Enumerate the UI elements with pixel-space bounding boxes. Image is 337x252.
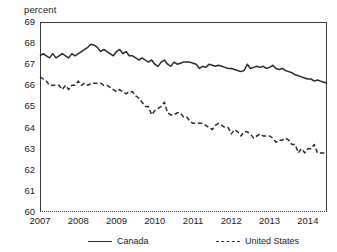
legend-label: Canada bbox=[117, 236, 149, 246]
x-tick-label: 2012 bbox=[221, 216, 242, 226]
x-tick-label: 2009 bbox=[106, 216, 127, 226]
legend-label: United States bbox=[245, 236, 299, 246]
x-tick-label: 2014 bbox=[297, 216, 318, 226]
legend-swatch-solid-icon bbox=[88, 241, 112, 242]
y-tick-label: 63 bbox=[15, 144, 35, 154]
x-axis-baseline bbox=[40, 211, 327, 212]
x-tick-label: 2013 bbox=[259, 216, 280, 226]
chart-legend: CanadaUnited States bbox=[0, 236, 337, 250]
y-tick-label: 62 bbox=[15, 165, 35, 175]
legend-item-canada: Canada bbox=[88, 236, 149, 246]
x-tick-label: 2011 bbox=[183, 216, 203, 226]
y-tick-label: 67 bbox=[15, 59, 35, 69]
y-tick-label: 61 bbox=[15, 186, 35, 196]
legend-item-united-states: United States bbox=[216, 236, 299, 246]
plot-area bbox=[40, 22, 327, 212]
x-tick-label: 2010 bbox=[144, 216, 165, 226]
y-tick-label: 66 bbox=[15, 80, 35, 90]
legend-swatch-dashed-icon bbox=[216, 241, 240, 242]
series-canvas bbox=[40, 22, 327, 212]
series-line-canada bbox=[40, 44, 327, 83]
y-tick-label: 68 bbox=[15, 38, 35, 48]
y-tick-label: 65 bbox=[15, 101, 35, 111]
y-tick-label: 69 bbox=[15, 17, 35, 27]
series-line-united-states bbox=[40, 77, 327, 153]
chart-figure: percent 69686766656463626160 20072008200… bbox=[0, 0, 337, 252]
x-tick-label: 2008 bbox=[68, 216, 89, 226]
y-tick-label: 64 bbox=[15, 123, 35, 133]
x-axis-tick-labels: 20072008200920102011201220132014 bbox=[0, 216, 337, 230]
x-tick-label: 2007 bbox=[29, 216, 50, 226]
